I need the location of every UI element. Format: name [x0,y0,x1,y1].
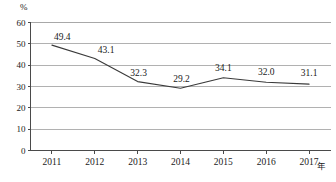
x-tick-label: 2016 [257,157,276,167]
y-tick-label: 40 [17,60,27,70]
x-tick-label: 2013 [128,157,147,167]
y-tick-label: 20 [17,103,27,113]
data-point-label: 32.0 [258,67,275,77]
y-tick-label: 0 [21,146,26,156]
data-point-label: 29.2 [173,74,190,84]
y-tick-label: 30 [17,82,27,92]
data-point-label: 32.3 [130,68,147,78]
y-tick-labels-group: 0102030405060 [17,18,27,156]
line-chart: % 年 0102030405060 2011201220132014201520… [0,0,336,182]
chart-canvas: 0102030405060 20112012201320142015201620… [0,0,336,182]
data-point-label: 31.1 [301,68,318,78]
x-tick-label: 2017 [300,157,319,167]
data-point-label: 49.4 [54,32,71,42]
y-tick-label: 60 [17,18,27,28]
x-tick-label: 2015 [214,157,233,167]
y-tick-label: 10 [17,124,27,134]
x-tick-label: 2014 [171,157,190,167]
data-point-label: 34.1 [215,63,232,73]
data-point-label: 43.1 [98,45,115,55]
x-tick-marks-group [52,151,309,155]
x-tick-label: 2012 [85,157,104,167]
x-tick-labels-group: 2011201220132014201520162017 [43,157,319,167]
x-tick-label: 2011 [43,157,62,167]
y-tick-label: 50 [17,39,27,49]
